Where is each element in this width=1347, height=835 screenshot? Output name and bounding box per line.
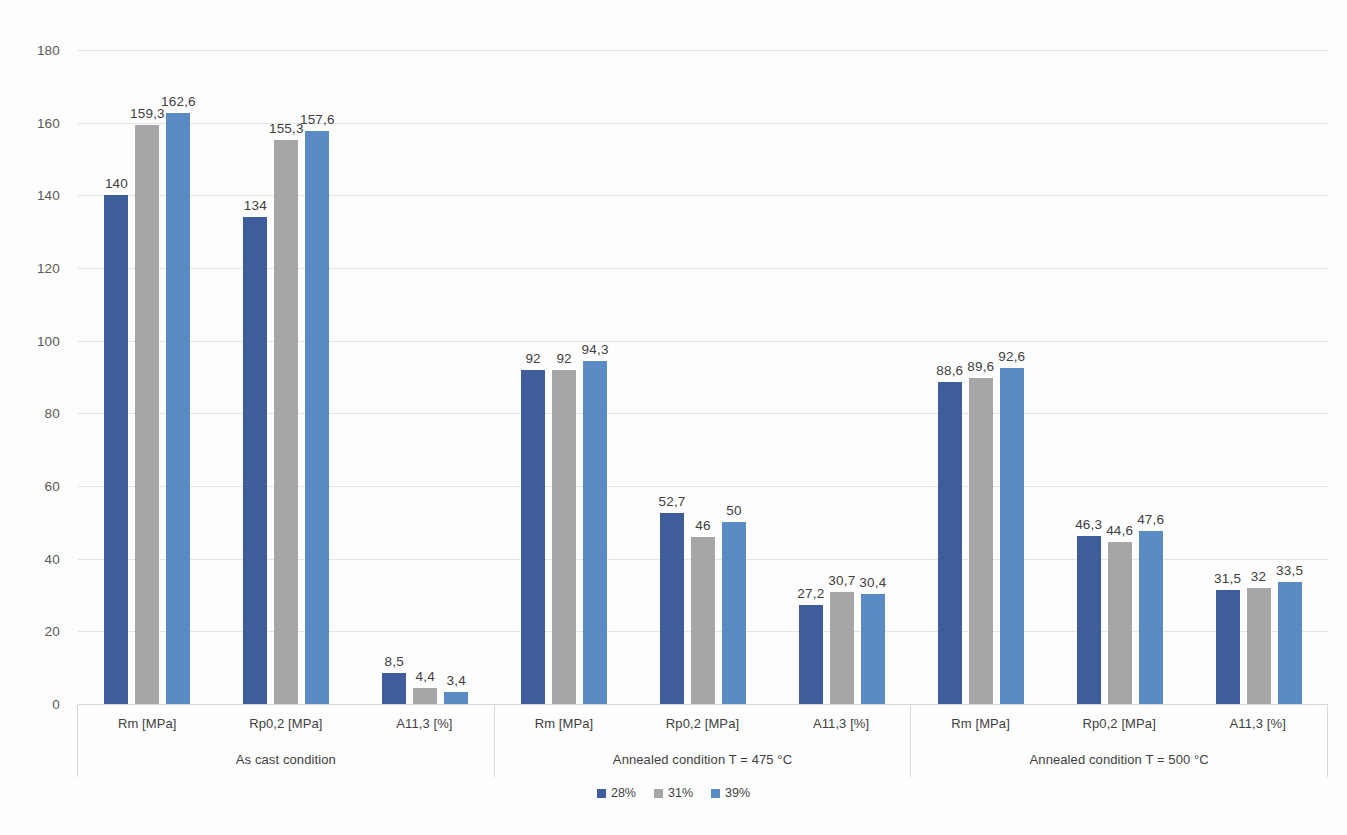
bar[interactable] <box>969 378 993 704</box>
bar-value-label: 92 <box>525 351 540 366</box>
bar-column[interactable]: 30,4 <box>861 50 885 704</box>
axis-group-label: Annealed condition T = 500 °C <box>911 741 1327 777</box>
bar-column[interactable]: 92 <box>552 50 576 704</box>
axis-category-label: Rm [MPa] <box>78 705 217 741</box>
bar-column[interactable]: 134 <box>243 50 267 704</box>
bar-column[interactable]: 92,6 <box>1000 50 1024 704</box>
y-tick-label: 160 <box>10 115 60 130</box>
bar-column[interactable]: 27,2 <box>799 50 823 704</box>
bar[interactable] <box>166 113 190 704</box>
bar-value-label: 30,4 <box>859 575 886 590</box>
bar[interactable] <box>382 673 406 704</box>
bar-column[interactable]: 32 <box>1247 50 1271 704</box>
bar-value-label: 47,6 <box>1137 512 1164 527</box>
bar-value-label: 50 <box>726 503 741 518</box>
bar[interactable] <box>521 370 545 704</box>
axis-category-label: Rp0,2 [MPa] <box>633 705 772 741</box>
bar-column[interactable]: 46,3 <box>1077 50 1101 704</box>
bar-column[interactable]: 140 <box>104 50 128 704</box>
bar-column[interactable]: 157,6 <box>305 50 329 704</box>
y-tick-label: 20 <box>10 624 60 639</box>
bar[interactable] <box>861 594 885 704</box>
legend-swatch-icon <box>597 789 606 798</box>
bar[interactable] <box>243 217 267 704</box>
bar-category: 52,74650 <box>634 50 773 704</box>
bar[interactable] <box>444 692 468 704</box>
bar[interactable] <box>691 537 715 704</box>
axis-group-label: Annealed condition T = 475 °C <box>495 741 911 777</box>
bar-column[interactable]: 94,3 <box>583 50 607 704</box>
legend-item[interactable]: 28% <box>597 786 636 800</box>
bar[interactable] <box>830 592 854 704</box>
bar[interactable] <box>1216 590 1240 704</box>
chart-legend: 28%31%39% <box>0 786 1347 800</box>
bar[interactable] <box>104 195 128 704</box>
bar[interactable] <box>1108 542 1132 704</box>
bar-group: 88,689,692,646,344,647,631,53233,5 <box>911 50 1328 704</box>
bar[interactable] <box>1247 588 1271 704</box>
axis-category-label: Rp0,2 [MPa] <box>217 705 356 741</box>
bar-column[interactable]: 92 <box>521 50 545 704</box>
legend-item[interactable]: 39% <box>711 786 750 800</box>
bar-column[interactable]: 4,4 <box>413 50 437 704</box>
legend-swatch-icon <box>711 789 720 798</box>
bar[interactable] <box>1000 368 1024 704</box>
bar[interactable] <box>305 131 329 704</box>
bar-value-label: 31,5 <box>1214 571 1241 586</box>
legend-item[interactable]: 31% <box>654 786 693 800</box>
bar-category: 134155,3157,6 <box>217 50 356 704</box>
bar-column[interactable]: 89,6 <box>969 50 993 704</box>
bar-column[interactable]: 30,7 <box>830 50 854 704</box>
axis-category-label: A11,3 [%] <box>772 705 911 741</box>
bar-column[interactable]: 8,5 <box>382 50 406 704</box>
y-tick-label: 60 <box>10 479 60 494</box>
y-tick-label: 0 <box>10 697 60 712</box>
x-axis-label-panel: Rm [MPa]Rp0,2 [MPa]A11,3 [%]As cast cond… <box>78 704 1328 777</box>
bar-value-label: 3,4 <box>447 673 466 688</box>
bar-category: 31,53233,5 <box>1189 50 1328 704</box>
y-tick-label: 120 <box>10 261 60 276</box>
bar-value-label: 159,3 <box>130 106 165 121</box>
bar[interactable] <box>938 382 962 704</box>
bar[interactable] <box>1139 531 1163 704</box>
bar[interactable] <box>583 361 607 704</box>
bar-value-label: 44,6 <box>1106 523 1133 538</box>
bar-column[interactable]: 33,5 <box>1278 50 1302 704</box>
legend-label: 28% <box>611 786 636 800</box>
bar-column[interactable]: 88,6 <box>938 50 962 704</box>
bar-column[interactable]: 52,7 <box>660 50 684 704</box>
bar-column[interactable]: 44,6 <box>1108 50 1132 704</box>
axis-category-label: Rp0,2 [MPa] <box>1050 705 1189 741</box>
bar-category: 929294,3 <box>495 50 634 704</box>
bar[interactable] <box>274 140 298 704</box>
bar[interactable] <box>660 513 684 704</box>
bar[interactable] <box>552 370 576 704</box>
bar[interactable] <box>413 688 437 704</box>
bar-category: 27,230,730,4 <box>772 50 911 704</box>
bar[interactable] <box>722 522 746 704</box>
bar-column[interactable]: 47,6 <box>1139 50 1163 704</box>
bar[interactable] <box>1278 582 1302 704</box>
bar[interactable] <box>799 605 823 704</box>
bar-category: 140159,3162,6 <box>78 50 217 704</box>
plot-area: 140159,3162,6134155,3157,68,54,43,492929… <box>78 50 1328 704</box>
bar-value-label: 157,6 <box>300 112 335 127</box>
bar-column[interactable]: 155,3 <box>274 50 298 704</box>
bar[interactable] <box>135 125 159 704</box>
bar-column[interactable]: 46 <box>691 50 715 704</box>
bar-value-label: 88,6 <box>936 363 963 378</box>
bar-column[interactable]: 159,3 <box>135 50 159 704</box>
bar-category: 46,344,647,6 <box>1050 50 1189 704</box>
axis-category-row: Rm [MPa]Rp0,2 [MPa]A11,3 [%] <box>911 705 1327 741</box>
bar[interactable] <box>1077 536 1101 704</box>
axis-group-label: As cast condition <box>78 741 494 777</box>
bar-column[interactable]: 162,6 <box>166 50 190 704</box>
bar-chart: 140159,3162,6134155,3157,68,54,43,492929… <box>0 0 1347 835</box>
bar-column[interactable]: 3,4 <box>444 50 468 704</box>
bar-column[interactable]: 50 <box>722 50 746 704</box>
axis-category-label: Rm [MPa] <box>911 705 1050 741</box>
y-tick-label: 100 <box>10 333 60 348</box>
bar-value-label: 46,3 <box>1075 517 1102 532</box>
bar-column[interactable]: 31,5 <box>1216 50 1240 704</box>
axis-category-row: Rm [MPa]Rp0,2 [MPa]A11,3 [%] <box>495 705 911 741</box>
